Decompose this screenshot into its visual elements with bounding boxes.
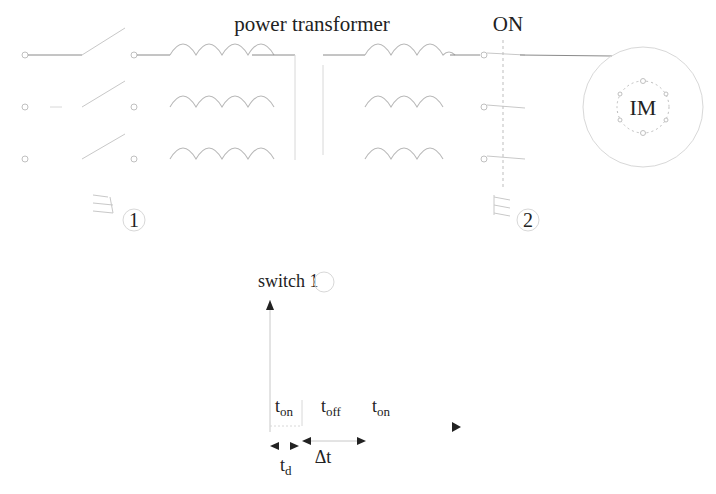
switch-2-blade-c	[487, 156, 525, 159]
x-axis-arrow	[452, 422, 461, 432]
switch-1	[22, 28, 170, 162]
secondary-coil-c	[365, 148, 443, 159]
td-arrow-right	[290, 442, 299, 450]
switch-2-blade-b	[487, 105, 525, 108]
switch-1-number: 1	[129, 209, 139, 231]
delay-label: td	[280, 455, 292, 478]
switch-1-blade-a	[82, 28, 125, 55]
switch-1-out-b	[131, 104, 137, 110]
primary-coil-c	[170, 148, 274, 159]
motor-feed	[520, 55, 612, 56]
interval-toff: toff	[321, 396, 342, 419]
switch-2-number: 2	[523, 209, 533, 231]
input-terminal-b	[22, 104, 28, 110]
switch-2	[481, 40, 525, 190]
switch-2-blade-a	[487, 53, 525, 55]
timing-diagram	[266, 300, 461, 450]
motor-label: IM	[630, 95, 657, 120]
switch-1-out-a	[131, 52, 137, 58]
secondary-coil-a	[365, 44, 455, 55]
delta-arrow-left	[302, 437, 311, 445]
input-terminal-a	[22, 52, 28, 58]
primary-coil-b	[170, 96, 274, 107]
delta-t-label: Δt	[315, 447, 332, 467]
circuit-diagram: 1 power transformer ON 2	[0, 0, 716, 494]
switch-2-state-label: ON	[493, 12, 523, 36]
interval-ton-2: ton	[372, 396, 391, 419]
delta-arrow-right	[357, 437, 366, 445]
switch-2-actuator	[494, 195, 510, 216]
switch-1-out-c	[131, 156, 137, 162]
secondary-coil-b	[365, 96, 443, 107]
switch-1-blade-b	[82, 81, 125, 107]
switch-1-blade-c	[82, 134, 125, 159]
interval-ton-1: ton	[275, 396, 294, 419]
input-terminal-c	[22, 156, 28, 162]
y-axis-arrow	[266, 300, 274, 310]
transformer-primary	[170, 44, 295, 160]
primary-coil-a	[170, 44, 274, 55]
timing-axis-label: switch 1	[258, 271, 319, 291]
transformer-secondary	[323, 44, 480, 159]
switch-1-actuator	[93, 195, 113, 213]
td-arrow-left	[270, 442, 279, 450]
transformer-label: power transformer	[234, 12, 390, 36]
